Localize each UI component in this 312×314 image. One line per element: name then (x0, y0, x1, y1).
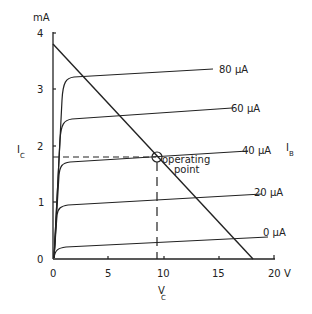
y-tick-label: 0 (37, 254, 43, 265)
transistor-characteristics-diagram: 4 3 2 1 0 0 5 10 15 20 V mA I C V C I B … (0, 0, 312, 314)
curve-label-60uA: 60 µA (231, 103, 260, 114)
x-tick-label: 5 (105, 268, 111, 279)
characteristic-curves (54, 69, 268, 258)
x-tick-label: 0 (50, 268, 56, 279)
curve-label-40uA: 40 µA (242, 145, 271, 156)
y-unit-label: mA (33, 12, 50, 23)
curve-label-20uA: 20 µA (254, 187, 283, 198)
curve-60uA (54, 108, 232, 258)
curve-label-80uA: 80 µA (219, 64, 248, 75)
curve-label-0uA: 0 µA (263, 227, 286, 238)
x-tick-label: 15 (212, 268, 225, 279)
y-tick-label: 3 (37, 84, 43, 95)
family-label-sub: B (289, 150, 294, 158)
x-tick-label: 20 V (268, 268, 291, 279)
load-line (53, 44, 253, 259)
x-axis-label-sub: C (161, 294, 166, 302)
y-tick-label: 2 (37, 141, 43, 152)
operating-point-label-line2: point (174, 164, 200, 175)
y-tick-label: 1 (38, 197, 44, 208)
y-axis-label-sub: C (20, 152, 25, 160)
curve-20uA (54, 194, 262, 258)
x-tick-label: 10 (157, 268, 170, 279)
y-tick-label: 4 (37, 28, 43, 39)
